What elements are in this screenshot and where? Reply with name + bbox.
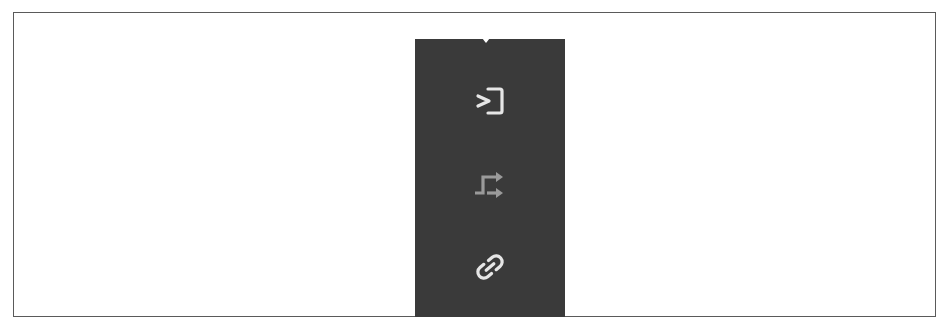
route-arrows-icon	[472, 169, 508, 201]
screenshot-frame	[13, 12, 936, 317]
enter-frame-icon	[473, 86, 507, 116]
link-button[interactable]	[465, 245, 515, 289]
vertical-toolbar	[415, 39, 565, 317]
link-icon	[473, 250, 507, 284]
toolbar-pointer-notch	[482, 38, 490, 43]
route-arrows-button[interactable]	[465, 163, 515, 207]
enter-frame-button[interactable]	[465, 79, 515, 123]
